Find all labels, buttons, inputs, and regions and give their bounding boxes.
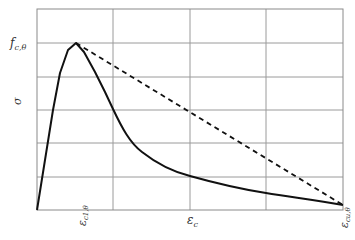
stress-strain-chart: fc,θ σ εc1,θ εc εcu,θ [0,0,355,240]
peak-strain-label: εc1,θ [76,204,90,226]
x-axis-labels: εc1,θ εc εcu,θ [76,204,352,229]
x-axis-label-epsilon: εc [187,213,198,229]
y-axis-label-sigma: σ [11,97,24,105]
peak-stress-label: fc,θ [9,36,26,52]
y-axis-labels: fc,θ σ [9,36,26,105]
grid [37,9,343,210]
